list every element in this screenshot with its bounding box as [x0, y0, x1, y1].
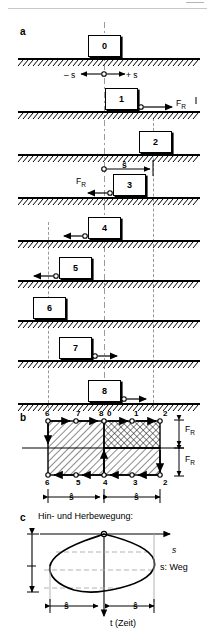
block-3: 3 [113, 174, 146, 196]
c-dim-left-label: ŝ [64, 601, 69, 611]
axis-neg-s-label: – s [64, 70, 75, 80]
b-top-label-6: 6 [45, 409, 49, 418]
b-force-label-lower: FR [185, 454, 195, 466]
block-1: 1 [105, 88, 138, 110]
axis-pos-s-label: + s [126, 70, 138, 80]
part-label-a: a [20, 26, 26, 37]
a-force-arrow-4 [64, 234, 87, 239]
a-force-arrow-1 [139, 97, 196, 109]
b-work-diagram [22, 419, 184, 503]
ground-hatch-7 [18, 362, 200, 368]
force-label-row-1: FR [176, 98, 186, 110]
b-top-label-7: 7 [76, 409, 80, 418]
ground-hatch-2 [18, 156, 200, 162]
c-plot [27, 531, 170, 616]
a-force-arrow-3 [88, 191, 112, 196]
block-8: 8 [88, 380, 121, 402]
top-rule [8, 8, 207, 9]
b-bottom-label-3: 3 [133, 478, 137, 487]
force-label-row-3: FR [76, 176, 86, 188]
top-rule-mark [186, 2, 204, 3]
ground-hatch-1 [18, 113, 200, 119]
block-4-label: 4 [102, 223, 107, 233]
block-6: 6 [33, 297, 66, 319]
c-axis-s-label: s [172, 545, 176, 555]
b-force-label-upper: FR [185, 424, 195, 436]
b-bottom-label-4: 4 [103, 478, 107, 487]
part-label-c: c [20, 512, 26, 523]
b-top-label-8: 8 [99, 409, 103, 418]
block-2: 2 [139, 131, 172, 153]
ground-hatch-4 [18, 242, 200, 248]
figure-root: a 0 – s + s 1 FR 2 ŝ 3 [0, 0, 207, 639]
block-5: 5 [59, 257, 92, 279]
block-4: 4 [88, 217, 121, 239]
b-bottom-label-6: 6 [45, 478, 49, 487]
ground-hatch-0 [18, 60, 200, 66]
a-axis-s [81, 72, 125, 77]
block-6-label: 6 [47, 303, 52, 313]
b-dim-left-label: ŝ [69, 492, 74, 502]
c-axis-s-legend: s: Weg [160, 562, 188, 572]
block-0-label: 0 [102, 41, 107, 51]
centerline-vertical [104, 22, 105, 408]
b-bottom-label-2: 2 [163, 478, 167, 487]
ground-hatch-6 [18, 322, 200, 328]
b-rect-right-upper [104, 421, 160, 448]
c-axis-t-label: t (Zeit) [110, 618, 136, 628]
part-label-b: b [20, 412, 26, 423]
block-0: 0 [88, 35, 121, 57]
b-rect-left [48, 421, 104, 475]
b-rect-right-lower [104, 448, 160, 475]
block-8-label: 8 [102, 386, 107, 396]
block-7: 7 [59, 337, 92, 359]
a-force-arrow-5 [34, 274, 58, 279]
ground-hatch-5 [18, 282, 200, 288]
b-bottom-label-5: 5 [76, 478, 80, 487]
block-2-label: 2 [153, 137, 158, 147]
block-3-label: 3 [127, 180, 132, 190]
b-top-label-0: 0 [107, 409, 111, 418]
amplitude-label-right: ŝ [122, 160, 127, 170]
block-7-label: 7 [73, 343, 78, 353]
c-sine-curve [50, 534, 155, 592]
block-5-label: 5 [73, 263, 78, 273]
block-1-label: 1 [119, 94, 124, 104]
b-top-label-2: 2 [163, 409, 167, 418]
b-top-label-1: 1 [134, 409, 138, 418]
ground-hatch-3 [18, 199, 200, 205]
a-force-arrow-8 [122, 397, 146, 402]
b-dim-right-label: ŝ [134, 492, 139, 502]
c-title: Hin- und Herbewegung: [38, 511, 133, 521]
c-dim-right-label: ŝ [133, 601, 138, 611]
